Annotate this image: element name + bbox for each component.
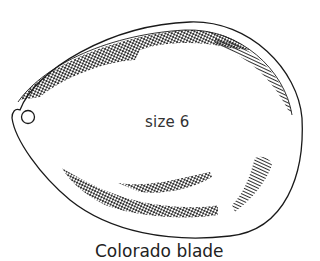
right-lower-shading — [232, 157, 272, 212]
figure-caption: Colorado blade — [95, 241, 224, 261]
right-shading — [215, 38, 292, 113]
blade-size-label: size 6 — [145, 113, 190, 131]
attachment-hole — [22, 111, 35, 124]
middle-shading — [118, 172, 212, 193]
